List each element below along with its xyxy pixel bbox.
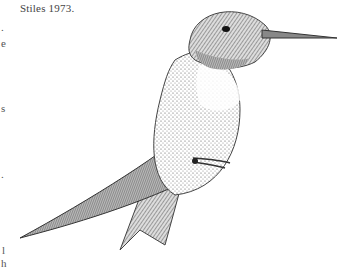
eye	[222, 26, 230, 32]
hummingbird-illustration	[0, 0, 342, 274]
bill	[262, 30, 337, 38]
throat	[196, 65, 240, 110]
